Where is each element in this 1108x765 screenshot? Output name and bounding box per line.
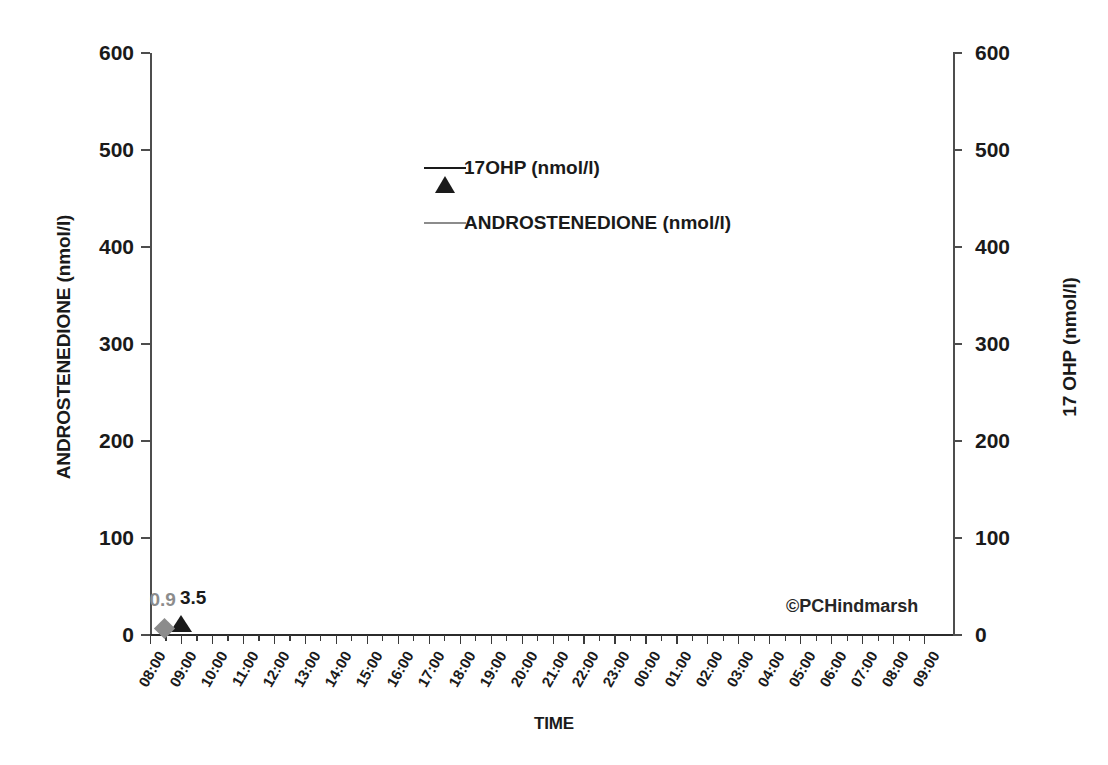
legend-label-17ohp: 17OHP (nmol/l) — [464, 157, 600, 179]
y-axis-left-tick — [141, 440, 150, 441]
x-axis-tick — [553, 635, 554, 644]
x-axis-minor-tick — [785, 635, 786, 641]
triangle-marker-icon — [424, 158, 466, 178]
legend-item-17ohp[interactable]: 17OHP (nmol/l) — [424, 150, 731, 186]
x-axis-tick — [800, 635, 801, 644]
x-axis-minor-tick — [537, 635, 538, 641]
datapoint-label: 0.9 — [149, 589, 175, 611]
x-axis-tick — [707, 635, 708, 644]
x-axis-minor-tick — [320, 635, 321, 641]
x-axis-tick — [862, 635, 863, 644]
x-axis-minor-tick — [258, 635, 259, 641]
x-axis-tick — [367, 635, 368, 644]
x-axis-minor-tick — [289, 635, 290, 641]
x-axis-minor-tick — [878, 635, 879, 641]
y-axis-left-line — [150, 53, 152, 635]
y-axis-right-ticklabel: 200 — [975, 429, 1095, 453]
legend-item-androstenedione[interactable]: ANDROSTENEDIONE (nmol/l) — [424, 205, 731, 241]
x-axis-minor-tick — [413, 635, 414, 641]
x-axis-minor-tick — [227, 635, 228, 641]
x-axis-tick — [676, 635, 677, 644]
x-axis-tick — [398, 635, 399, 644]
x-axis-tick — [614, 635, 615, 644]
x-axis-tick — [274, 635, 275, 644]
x-axis-tick — [893, 635, 894, 644]
y-axis-right-ticklabel: 600 — [975, 41, 1095, 65]
x-axis-tick — [522, 635, 523, 644]
y-axis-right-tick — [953, 246, 962, 247]
x-axis-minor-tick — [816, 635, 817, 641]
x-axis-minor-tick — [475, 635, 476, 641]
y-axis-right-tick — [953, 343, 962, 344]
x-axis-minor-tick — [723, 635, 724, 641]
y-axis-left-tick — [141, 52, 150, 53]
chart-legend: 17OHP (nmol/l) ANDROSTENEDIONE (nmol/l) — [424, 150, 731, 260]
y-axis-left-tick — [141, 246, 150, 247]
x-axis-minor-tick — [754, 635, 755, 641]
x-axis-tick — [491, 635, 492, 644]
chart-container: ANDROSTENEDIONE (nmol/l) 17 OHP (nmol/l)… — [0, 0, 1108, 765]
x-axis-tick — [645, 635, 646, 644]
x-axis-minor-tick — [661, 635, 662, 641]
y-axis-left-tick — [141, 343, 150, 344]
x-axis-minor-tick — [909, 635, 910, 641]
x-axis-minor-tick — [568, 635, 569, 641]
x-axis-tick — [429, 635, 430, 644]
copyright-credit: ©PCHindmarsh — [786, 596, 918, 617]
datapoint-label: 3.5 — [180, 587, 206, 609]
x-axis-minor-tick — [630, 635, 631, 641]
legend-label-androstenedione: ANDROSTENEDIONE (nmol/l) — [464, 212, 731, 234]
x-axis-minor-tick — [196, 635, 197, 641]
x-axis-minor-tick — [847, 635, 848, 641]
y-axis-right-tick — [953, 149, 962, 150]
x-axis-minor-tick — [444, 635, 445, 641]
y-axis-right-tick — [953, 52, 962, 53]
x-axis-tick — [212, 635, 213, 644]
x-axis-tick — [336, 635, 337, 644]
plot-area: 08:0009:0010:0011:0012:0013:0014:0015:00… — [150, 53, 955, 635]
x-axis-tick — [583, 635, 584, 644]
y-axis-right-ticklabel: 300 — [975, 332, 1095, 356]
x-axis-tick — [831, 635, 832, 644]
x-axis-tick — [460, 635, 461, 644]
y-axis-right-tick — [953, 537, 962, 538]
y-axis-right-ticklabel: 400 — [975, 235, 1095, 259]
y-axis-right-ticklabel: 0 — [975, 623, 1095, 647]
y-axis-left-tick — [141, 149, 150, 150]
x-axis-minor-tick — [506, 635, 507, 641]
x-axis-tick — [738, 635, 739, 644]
y-axis-right-tick — [953, 440, 962, 441]
y-axis-right-ticklabel: 500 — [975, 138, 1095, 162]
x-axis-tick — [150, 635, 151, 644]
x-axis-tick — [924, 635, 925, 644]
x-axis-tick — [305, 635, 306, 644]
diamond-marker-icon — [424, 213, 466, 233]
x-axis-tick — [181, 635, 182, 644]
x-axis-tick — [769, 635, 770, 644]
x-axis-tick — [243, 635, 244, 644]
x-axis-minor-tick — [351, 635, 352, 641]
y-axis-left-tick — [141, 634, 150, 635]
x-axis-minor-tick — [382, 635, 383, 641]
x-axis-minor-tick — [692, 635, 693, 641]
y-axis-right-tick — [953, 634, 962, 635]
y-axis-right-ticklabel: 100 — [975, 526, 1095, 550]
y-axis-left-tick — [141, 537, 150, 538]
x-axis-minor-tick — [599, 635, 600, 641]
